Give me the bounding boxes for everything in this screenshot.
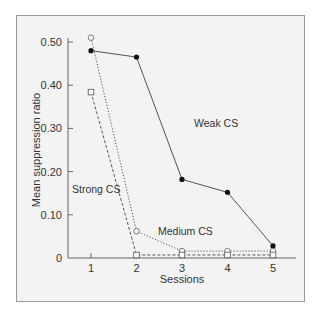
series-label-medium-cs: Medium CS bbox=[158, 225, 213, 237]
x-tick-label: 4 bbox=[224, 262, 230, 274]
x-tick-label: 2 bbox=[133, 262, 139, 274]
series-label-strong-cs: Strong CS bbox=[72, 183, 120, 195]
y-tick-label: 0.10 bbox=[41, 209, 62, 221]
series-weak-cs bbox=[88, 48, 275, 248]
line-chart: 00.100.200.300.400.5012345 Weak CSMedium… bbox=[0, 0, 318, 318]
axes: 00.100.200.300.400.5012345 bbox=[41, 36, 296, 274]
data-point-open-square bbox=[179, 252, 185, 258]
y-tick-label: 0.20 bbox=[41, 166, 62, 178]
data-point-open-circle bbox=[88, 35, 94, 41]
series-line bbox=[91, 38, 273, 251]
x-axis-title: Sessions bbox=[160, 273, 205, 285]
data-point-filled-circle bbox=[225, 190, 230, 195]
series-label-weak-cs: Weak CS bbox=[194, 117, 238, 129]
y-tick-label: 0.50 bbox=[41, 36, 62, 48]
data-point-filled-circle bbox=[270, 243, 275, 248]
x-tick-label: 5 bbox=[270, 262, 276, 274]
y-tick-label: 0 bbox=[56, 252, 62, 264]
y-tick-label: 0.30 bbox=[41, 122, 62, 134]
y-tick-label: 0.40 bbox=[41, 79, 62, 91]
data-point-filled-circle bbox=[179, 177, 184, 182]
series-labels: Weak CSMedium CSStrong CS bbox=[72, 117, 238, 237]
x-tick-label: 1 bbox=[88, 262, 94, 274]
data-point-open-square bbox=[88, 89, 94, 95]
data-point-open-square bbox=[134, 252, 140, 258]
y-axis-title: Mean suppression ratio bbox=[30, 93, 42, 207]
data-point-open-square bbox=[270, 252, 276, 258]
data-point-open-circle bbox=[134, 228, 140, 234]
series-medium-cs bbox=[88, 35, 276, 254]
data-point-filled-circle bbox=[134, 55, 139, 60]
data-point-open-square bbox=[225, 252, 231, 258]
data-point-filled-circle bbox=[88, 48, 93, 53]
series-line bbox=[91, 51, 273, 246]
